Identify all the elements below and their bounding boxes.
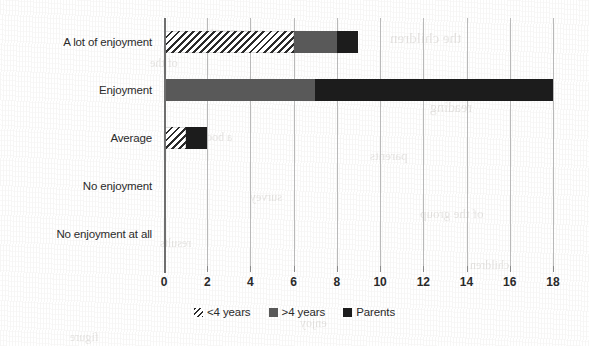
x-axis-tick-label: 6 bbox=[290, 275, 297, 289]
x-axis-tick bbox=[294, 266, 295, 272]
x-axis-tick-label: 18 bbox=[546, 275, 559, 289]
x-axis-tick-label: 10 bbox=[373, 275, 386, 289]
x-axis-tick-label: 16 bbox=[503, 275, 516, 289]
x-axis-tick bbox=[337, 266, 338, 272]
bar-row bbox=[164, 66, 553, 114]
bar-segment bbox=[164, 79, 315, 101]
x-axis-tick-label: 12 bbox=[417, 275, 430, 289]
y-axis-label-text: A lot of enjoyment bbox=[63, 36, 152, 48]
bar-row bbox=[164, 114, 553, 162]
x-axis-tick bbox=[423, 266, 424, 272]
legend-item[interactable]: Parents bbox=[343, 306, 395, 318]
bar-segment bbox=[315, 79, 553, 101]
x-axis-tick bbox=[164, 266, 166, 273]
x-axis-tick bbox=[250, 266, 251, 272]
bar-segment bbox=[337, 31, 359, 53]
black-swatch-icon bbox=[343, 308, 352, 317]
stacked-bar bbox=[164, 79, 553, 101]
legend-item[interactable]: >4 years bbox=[269, 306, 326, 318]
y-axis-label: A lot of enjoyment bbox=[0, 18, 152, 66]
legend-item-label: >4 years bbox=[282, 306, 326, 318]
gridline bbox=[553, 18, 554, 266]
gray-swatch-icon bbox=[269, 308, 278, 317]
y-axis-label: No enjoyment bbox=[0, 162, 152, 210]
bar-row bbox=[164, 210, 553, 258]
x-axis: 024681012141618 bbox=[164, 266, 553, 296]
stacked-bar bbox=[164, 127, 207, 149]
x-axis-tick bbox=[510, 266, 511, 272]
bar-segment bbox=[164, 31, 294, 53]
y-axis-label-text: Average bbox=[110, 132, 152, 144]
value-axis-line bbox=[164, 18, 166, 266]
chart-legend: <4 years>4 yearsParents bbox=[0, 306, 589, 318]
x-axis-tick-label: 4 bbox=[247, 275, 254, 289]
y-axis-label-text: Enjoyment bbox=[99, 84, 152, 96]
y-axis-label-text: No enjoyment at all bbox=[56, 228, 152, 240]
stacked-bar-chart: A lot of enjoymentEnjoymentAverageNo enj… bbox=[0, 0, 589, 346]
x-axis-tick bbox=[553, 266, 554, 272]
x-axis-tick bbox=[380, 266, 381, 272]
x-axis-tick-label: 14 bbox=[460, 275, 473, 289]
legend-item-label: <4 years bbox=[207, 306, 251, 318]
legend-item-label: Parents bbox=[356, 306, 395, 318]
y-axis-label: Enjoyment bbox=[0, 66, 152, 114]
stacked-bar bbox=[164, 31, 358, 53]
bar-row bbox=[164, 162, 553, 210]
x-axis-tick-label: 0 bbox=[161, 275, 168, 289]
x-axis-tick bbox=[467, 266, 468, 272]
y-axis-label: Average bbox=[0, 114, 152, 162]
legend-item[interactable]: <4 years bbox=[194, 306, 251, 318]
plot-area bbox=[164, 18, 553, 266]
x-axis-tick-label: 2 bbox=[204, 275, 211, 289]
y-axis-label: No enjoyment at all bbox=[0, 210, 152, 258]
x-axis-tick bbox=[207, 266, 208, 272]
bar-segment bbox=[294, 31, 337, 53]
bar-segment bbox=[186, 127, 208, 149]
hatch-swatch-icon bbox=[194, 308, 203, 317]
bar-row bbox=[164, 18, 553, 66]
y-axis-labels: A lot of enjoymentEnjoymentAverageNo enj… bbox=[0, 18, 158, 266]
bar-segment bbox=[164, 127, 186, 149]
x-axis-tick-label: 8 bbox=[334, 275, 341, 289]
y-axis-label-text: No enjoyment bbox=[83, 180, 152, 192]
